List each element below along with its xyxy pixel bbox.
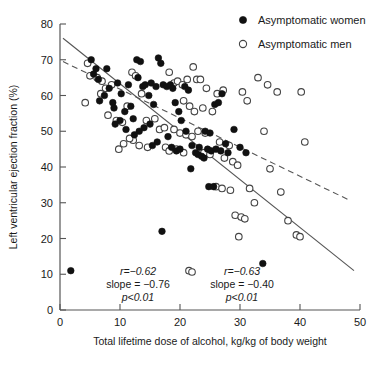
legend: Asymptomatic women Asymptomatic men: [239, 14, 365, 50]
annotation-men-marker-icon: [189, 269, 196, 276]
data-point-men: [242, 216, 249, 223]
scatter-plot: 01020304050607080 01020304050 Total life…: [0, 0, 384, 372]
data-point-men: [105, 112, 112, 119]
data-point-women: [147, 121, 154, 128]
data-point-women: [243, 149, 250, 156]
y-axis-title: Left ventricular ejection fraction (%): [7, 85, 19, 250]
data-point-men: [161, 124, 168, 131]
annotation-men-p: p<0.01: [225, 291, 258, 303]
data-point-men: [267, 165, 274, 172]
data-point-women: [130, 115, 137, 122]
data-point-women: [104, 65, 111, 72]
chart-figure: 01020304050607080 01020304050 Total life…: [0, 0, 384, 372]
data-point-women: [189, 142, 196, 149]
data-point-men: [234, 162, 241, 169]
data-point-women: [172, 99, 179, 106]
data-point-women: [177, 146, 184, 153]
data-points-men: [82, 60, 308, 274]
annotation-women-slope: slope = −0.76: [106, 278, 170, 290]
data-point-women: [150, 101, 157, 108]
x-tick-label: 10: [114, 316, 126, 328]
legend-marker-men-icon: [239, 40, 246, 47]
data-point-women: [170, 85, 177, 92]
data-point-women: [215, 99, 222, 106]
data-point-men: [298, 89, 305, 96]
annotation-men-stats: r=−0.63 slope = −0.40 p<0.01: [210, 265, 274, 303]
data-point-women: [149, 142, 156, 149]
data-point-women: [111, 105, 118, 112]
legend-label-women: Asymptomatic women: [258, 14, 366, 26]
data-point-women: [101, 92, 108, 99]
data-point-men: [246, 185, 253, 192]
annotation-women-r: r=−0.62: [120, 265, 156, 277]
annotation-women-p: p<0.01: [121, 291, 154, 303]
data-point-women: [137, 58, 144, 65]
data-point-women: [158, 60, 165, 67]
data-point-women: [218, 148, 225, 155]
data-point-men: [166, 69, 173, 76]
data-point-women: [112, 121, 119, 128]
data-point-women: [142, 81, 149, 88]
data-point-women: [106, 85, 113, 92]
data-point-men: [203, 85, 210, 92]
data-point-women: [68, 267, 75, 274]
y-tick-label: 60: [41, 90, 53, 102]
data-point-women: [146, 92, 153, 99]
data-point-women: [131, 132, 138, 139]
data-point-women: [95, 76, 102, 83]
data-point-women: [201, 155, 208, 162]
data-point-women: [128, 103, 135, 110]
data-point-women: [165, 133, 172, 140]
data-point-women: [185, 87, 192, 94]
data-point-women: [178, 117, 185, 124]
data-point-men: [285, 217, 292, 224]
y-tick-label: 80: [41, 18, 53, 30]
data-point-men: [152, 115, 159, 122]
data-point-men: [138, 90, 145, 97]
data-point-women: [125, 81, 132, 88]
data-point-women: [207, 130, 214, 137]
data-point-men: [200, 105, 207, 112]
data-point-women: [96, 98, 103, 105]
y-tick-label: 0: [47, 304, 53, 316]
data-point-men: [278, 189, 285, 196]
data-point-women: [222, 140, 229, 147]
data-point-women: [123, 126, 130, 133]
data-point-women: [88, 56, 95, 63]
data-point-men: [244, 98, 251, 105]
data-point-men: [180, 98, 187, 105]
data-point-women: [231, 126, 238, 133]
data-point-men: [251, 199, 258, 206]
data-point-men: [136, 142, 143, 149]
data-point-women: [153, 83, 160, 90]
data-point-women: [237, 144, 244, 151]
y-axis-ticks: 01020304050607080: [41, 18, 66, 316]
annotation-men-slope: slope = −0.40: [210, 278, 274, 290]
data-point-men: [274, 89, 281, 96]
data-point-men: [216, 139, 223, 146]
data-point-men: [171, 126, 178, 133]
data-point-women: [219, 90, 226, 97]
x-tick-label: 0: [57, 316, 63, 328]
annotation-men-r: r=−0.63: [224, 265, 260, 277]
y-tick-label: 50: [41, 125, 53, 137]
data-point-men: [195, 128, 202, 135]
data-point-men: [302, 139, 309, 146]
data-point-men: [82, 99, 89, 106]
y-tick-label: 20: [41, 233, 53, 245]
data-point-men: [186, 103, 193, 110]
data-point-women: [210, 183, 217, 190]
data-point-women: [196, 144, 203, 151]
data-point-women: [183, 128, 190, 135]
x-tick-label: 30: [234, 316, 246, 328]
data-point-men: [219, 185, 226, 192]
data-point-men: [116, 146, 123, 153]
data-point-women: [188, 165, 195, 172]
data-point-women: [90, 71, 97, 78]
data-point-women: [260, 260, 267, 267]
data-point-men: [184, 76, 191, 83]
x-tick-label: 50: [354, 316, 366, 328]
legend-marker-women-icon: [239, 16, 246, 23]
data-point-men: [239, 89, 246, 96]
x-axis-title: Total lifetime dose of alcohol, kg/kg of…: [93, 335, 327, 347]
